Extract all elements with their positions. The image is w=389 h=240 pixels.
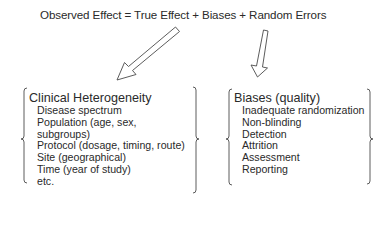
list-item: Reporting	[242, 164, 365, 176]
list-item: Population (age, sex,	[37, 117, 185, 129]
right-box-open-brace	[226, 89, 232, 185]
arrow-to-clinical-heterogeneity	[117, 27, 180, 80]
right-box-close-brace	[367, 89, 373, 184]
arrow-to-biases	[251, 30, 268, 77]
list-item: Non-blinding	[242, 117, 365, 129]
clinical-heterogeneity-heading: Clinical Heterogeneity	[29, 91, 185, 105]
clinical-heterogeneity-list: Disease spectrum Population (age, sex, s…	[29, 105, 185, 188]
list-item: Time (year of study)	[37, 164, 185, 176]
left-box-open-brace	[21, 88, 27, 183]
clinical-heterogeneity-box: Clinical Heterogeneity Disease spectrum …	[29, 91, 185, 188]
biases-box: Biases (quality) Inadequate randomizatio…	[234, 91, 365, 176]
left-box-close-brace	[193, 87, 199, 193]
list-item: etc.	[37, 176, 185, 188]
biases-heading: Biases (quality)	[234, 91, 365, 105]
biases-list: Inadequate randomization Non-blinding De…	[234, 105, 365, 176]
